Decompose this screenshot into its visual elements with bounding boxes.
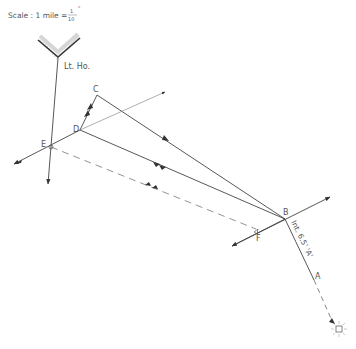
interval-annotation: Int. 6.5' 'A' xyxy=(289,219,315,259)
arrow-e-f-1 xyxy=(145,182,151,186)
transit-line-d-upper xyxy=(80,92,165,130)
label-point-f: F xyxy=(256,234,261,243)
label-point-e: E xyxy=(41,140,46,149)
svg-text:Scale : 1 mile =: Scale : 1 mile = xyxy=(8,11,67,20)
arrow-c-d-1 xyxy=(87,103,93,110)
transit-line-lighthouse xyxy=(48,58,58,184)
svg-text:10: 10 xyxy=(68,16,74,22)
arrow-b-c xyxy=(162,135,169,141)
dashed-line-a-sun xyxy=(314,280,333,323)
lighthouse-headland-icon xyxy=(38,34,80,61)
sun-icon xyxy=(331,321,347,337)
line-d-e xyxy=(14,130,80,164)
svg-text:1: 1 xyxy=(70,8,73,14)
line-b-c xyxy=(97,95,285,219)
line-b-d xyxy=(80,130,285,219)
arrow-e-f-2 xyxy=(152,185,158,189)
label-point-d: D xyxy=(73,125,79,134)
diagram-canvas: Scale : 1 mile = 1 10 " Lt. Ho. xyxy=(0,0,356,349)
scale-label: Scale : 1 mile = 1 10 " xyxy=(8,5,80,22)
lighthouse-label: Lt. Ho. xyxy=(64,62,90,71)
svg-text:": " xyxy=(78,5,80,11)
label-point-c: C xyxy=(93,85,99,94)
label-point-b: B xyxy=(283,208,289,217)
label-point-a: A xyxy=(315,272,321,281)
arrow-a-sun xyxy=(329,318,335,324)
